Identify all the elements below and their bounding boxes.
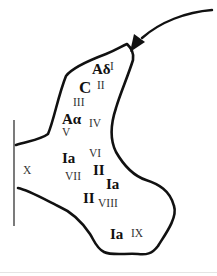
fiber-label-a-alpha: Aα bbox=[62, 112, 81, 127]
lamina-label-vi: VI bbox=[89, 148, 101, 160]
fiber-label-ii-2: II bbox=[83, 191, 95, 206]
lamina-label-i: I bbox=[110, 61, 114, 73]
fiber-label-ia-3: Ia bbox=[110, 227, 123, 242]
fiber-label-ia-1: Ia bbox=[62, 151, 75, 166]
lamina-label-ii: II bbox=[97, 80, 105, 92]
fiber-label-ii-1: II bbox=[93, 163, 105, 178]
lamina-label-iv: IV bbox=[89, 118, 101, 130]
fiber-label-a-delta: Aδ bbox=[92, 62, 111, 77]
lamina-label-viii: VIII bbox=[98, 198, 118, 210]
spinal-cord-diagram bbox=[0, 0, 217, 276]
bottom-divider bbox=[0, 272, 217, 273]
lamina-label-v: V bbox=[62, 127, 70, 139]
lamina-label-iii: III bbox=[73, 97, 85, 109]
lamina-label-ix: IX bbox=[131, 228, 143, 240]
lamina-label-vii: VII bbox=[65, 171, 81, 183]
fiber-label-c: C bbox=[79, 79, 91, 96]
lamina-label-x: X bbox=[23, 165, 31, 177]
afferent-arrow-shaft bbox=[142, 10, 212, 38]
fiber-label-ia-2: Ia bbox=[106, 177, 119, 192]
